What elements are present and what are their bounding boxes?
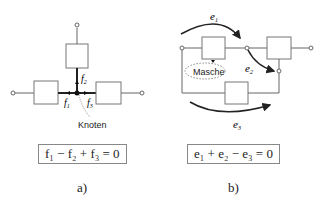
- equation-b: e₁ + e₂ − e₃ = 0: [187, 144, 280, 164]
- panel-a-diagram: f2 f1 f3: [11, 23, 144, 117]
- svg-text:e1: e1: [210, 10, 218, 23]
- svg-text:e2: e2: [245, 62, 253, 75]
- mesh-label: Masche: [193, 67, 225, 77]
- svg-text:f2: f2: [81, 73, 87, 85]
- caption-b: b): [228, 180, 239, 196]
- equation-a: f₁ − f₂ + f₃ = 0: [38, 144, 127, 164]
- svg-text:f1: f1: [64, 97, 70, 109]
- node-label: Knoten: [78, 120, 107, 130]
- svg-text:e3: e3: [233, 118, 241, 131]
- svg-text:f3: f3: [87, 97, 93, 109]
- caption-a: a): [77, 180, 87, 196]
- diagram-canvas: f2 f1 f3 Knoten e1 e2 e3 Masche: [0, 0, 319, 201]
